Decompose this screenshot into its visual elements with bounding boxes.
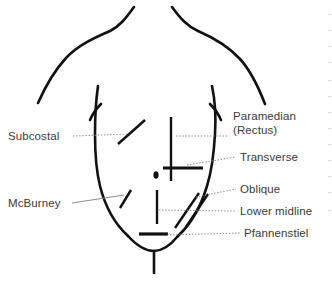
costal-margin-marks [90,104,221,120]
left-flank-contour [95,86,128,236]
incision-subcostal [118,120,145,144]
leader-lower-midline [159,210,236,211]
torso-diagram [0,0,332,286]
label-subcostal: Subcostal [8,130,59,143]
pelvic-contour [128,236,178,251]
label-pfannenstiel: Pfannenstiel [244,227,309,240]
label-paramedian-line2: (Rectus) [233,124,277,136]
leader-mcburney [72,195,124,203]
incision-mcburney [120,190,131,208]
label-lower-midline: Lower midline [240,205,312,218]
abdominal-incisions-figure: Subcostal McBurney Paramedian (Rectus) T… [0,0,332,286]
label-paramedian-line1: Paramedian [233,110,296,122]
label-transverse: Transverse [240,151,298,164]
umbilicus-marker [153,171,158,179]
left-shoulder-contour [38,7,134,103]
label-paramedian: Paramedian (Rectus) [233,110,296,137]
label-oblique: Oblique [240,183,280,196]
right-shoulder-contour [172,7,265,104]
label-mcburney: McBurney [8,197,61,210]
leader-subcostal [73,134,129,136]
right-edge-crop-artifact [326,0,332,286]
leader-oblique [196,189,236,197]
